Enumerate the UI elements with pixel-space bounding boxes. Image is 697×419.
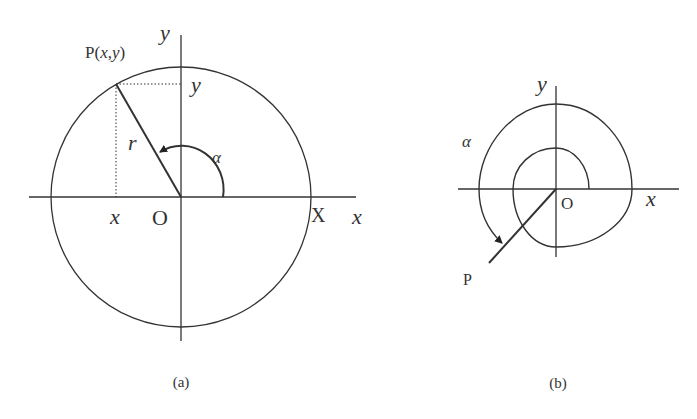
caption-a: (a)	[173, 374, 190, 391]
y-axis-label-b: y	[535, 71, 547, 96]
y-projection-label: y	[189, 72, 201, 97]
figure-b: y α O x P (b)	[458, 71, 679, 392]
radius-line-r	[116, 84, 181, 197]
point-label-P: P(x,y)	[85, 43, 125, 62]
radius-label: r	[128, 130, 137, 155]
origin-label-b: O	[561, 194, 573, 213]
figure-a: P(x,y) y y r α x O X x (a)	[29, 20, 362, 391]
angle-label-alpha-a: α	[212, 148, 222, 167]
x-axis-label-b: x	[645, 186, 656, 211]
origin-label-a: O	[152, 205, 168, 230]
circle-intercept-label-X: X	[311, 204, 326, 226]
caption-b: (b)	[549, 375, 567, 392]
trig-angle-diagrams: P(x,y) y y r α x O X x (a) y α O x P (b)	[0, 0, 697, 419]
terminal-side-line	[489, 189, 556, 263]
angle-label-alpha-b: α	[462, 132, 472, 151]
x-axis-label-a: x	[351, 204, 362, 229]
point-label-P-b: P	[463, 271, 472, 288]
y-axis-label-a: y	[158, 20, 170, 45]
x-projection-label: x	[109, 204, 120, 229]
